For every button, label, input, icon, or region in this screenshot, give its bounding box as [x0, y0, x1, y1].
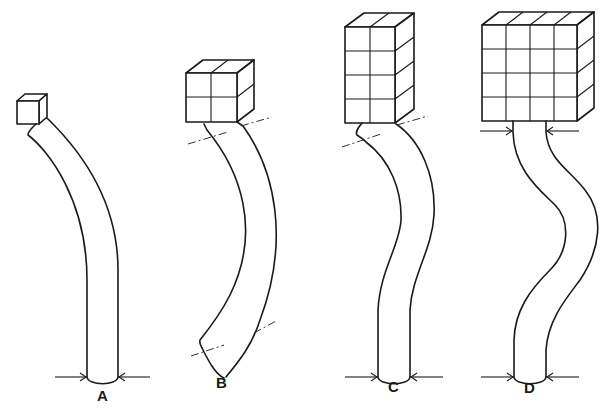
panel-label-c: C [388, 378, 399, 395]
column-c [356, 123, 434, 384]
column-b [200, 122, 277, 378]
column-d [513, 121, 598, 384]
panel-label-a: A [97, 387, 108, 404]
panel-d: D [480, 12, 598, 396]
base-arrows-a [55, 373, 150, 381]
load-cube-b [186, 60, 254, 122]
panel-label-b: B [216, 374, 227, 391]
inflection-marks-b [188, 117, 276, 356]
load-cube-c [345, 13, 414, 123]
buckling-diagram: A B [0, 0, 615, 408]
panel-label-d: D [524, 379, 535, 396]
diagram-canvas: A B [0, 0, 615, 408]
load-cube-d [482, 12, 594, 121]
top-arrows-d [480, 127, 579, 135]
panel-b: B [186, 60, 276, 391]
panel-a: A [17, 94, 150, 404]
panel-c: C [342, 13, 443, 395]
column-a [28, 118, 118, 384]
load-cube-a [17, 94, 47, 124]
